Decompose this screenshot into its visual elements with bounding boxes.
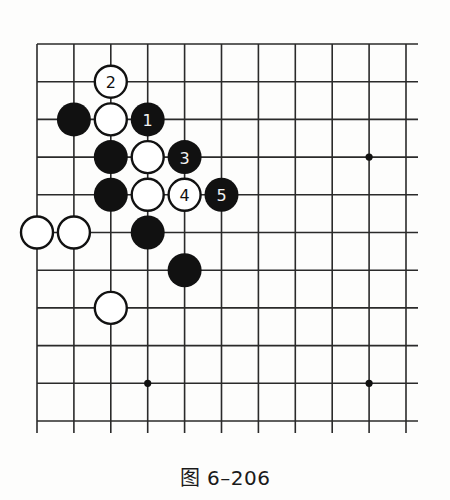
white-stone-icon: [58, 217, 90, 249]
figure-caption: 图 6–206: [0, 462, 450, 491]
move-number-label: 4: [180, 186, 190, 205]
move-number-label: 3: [180, 149, 190, 168]
black-stone: [131, 216, 165, 250]
black-stone-icon: [131, 216, 165, 250]
white-stone-move-2: 2: [95, 66, 127, 98]
star-point-icon: [366, 380, 373, 387]
white-stone: [132, 141, 164, 173]
black-stone-move-1: 1: [131, 102, 165, 136]
black-stone-icon: [168, 253, 202, 287]
star-point-icon: [366, 154, 373, 161]
white-stone-move-4: 4: [169, 179, 201, 211]
white-stone: [58, 217, 90, 249]
white-stone-icon: [21, 217, 53, 249]
star-point-icon: [144, 380, 151, 387]
board-grid: [37, 44, 418, 433]
white-stone: [95, 292, 127, 324]
black-stone: [57, 102, 91, 136]
black-stone-icon: [57, 102, 91, 136]
black-stone: [94, 140, 128, 174]
white-stone: [132, 179, 164, 211]
move-number-label: 1: [143, 111, 153, 130]
black-stone-icon: [94, 140, 128, 174]
black-stone-icon: [94, 178, 128, 212]
move-number-label: 2: [106, 73, 116, 92]
white-stone-icon: [95, 103, 127, 135]
white-stone-icon: [132, 141, 164, 173]
white-stone-icon: [95, 292, 127, 324]
white-stone: [21, 217, 53, 249]
go-board: 21345: [0, 0, 450, 450]
black-stone: [94, 178, 128, 212]
black-stone-move-5: 5: [205, 178, 239, 212]
black-stone-move-3: 3: [168, 140, 202, 174]
go-board-diagram: 21345: [0, 0, 450, 450]
white-stone: [95, 103, 127, 135]
black-stone: [168, 253, 202, 287]
move-number-label: 5: [216, 186, 226, 205]
white-stone-icon: [132, 179, 164, 211]
